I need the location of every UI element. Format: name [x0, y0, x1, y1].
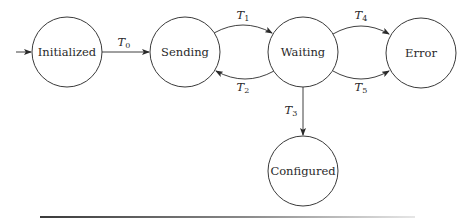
transition-t3-subscript: 3 [292, 109, 297, 118]
transition-t2-edge [216, 71, 274, 79]
state-sending-label: Sending [161, 45, 210, 59]
state-error-label: Error [405, 46, 437, 60]
transition-t1-edge [214, 25, 272, 33]
state-error: Error [386, 18, 456, 88]
transition-t5-edge [333, 71, 389, 79]
state-sending: Sending [150, 17, 220, 87]
state-diagram: Initialized Sending Waiting Error Config… [0, 0, 465, 218]
transition-t0-label: T0 [118, 35, 131, 50]
state-configured: Configured [268, 136, 338, 206]
bottom-divider [40, 216, 415, 218]
transition-t5-label: T5 [355, 80, 368, 95]
transition-t1-subscript: 1 [244, 14, 249, 23]
state-initialized-label: Initialized [38, 45, 97, 59]
transition-t3-label: T3 [285, 103, 298, 118]
transition-t2-label: T2 [237, 80, 250, 95]
transition-t4-edge [333, 26, 389, 34]
state-waiting: Waiting [268, 17, 338, 87]
transition-t4-subscript: 4 [362, 14, 367, 23]
state-waiting-label: Waiting [281, 45, 326, 59]
transition-t1-label: T1 [237, 8, 250, 23]
state-configured-label: Configured [270, 164, 336, 178]
state-initialized: Initialized [32, 17, 102, 87]
transition-t2-subscript: 2 [244, 86, 249, 95]
transition-t4-label: T4 [355, 8, 368, 23]
transition-t5-subscript: 5 [362, 86, 367, 95]
transition-t0-subscript: 0 [125, 41, 130, 50]
